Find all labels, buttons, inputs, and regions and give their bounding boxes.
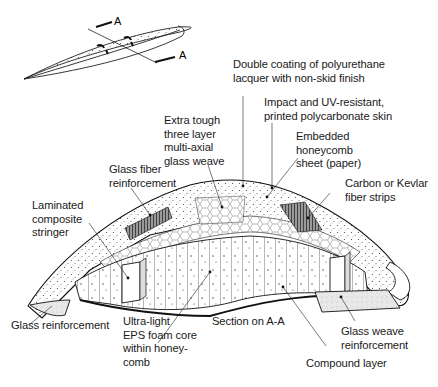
label-eps-foam-core: Ultra-light EPS foam core within honey- … [123, 315, 197, 369]
label-compound-layer: Compound layer [306, 357, 387, 371]
label-laminated-stringer: Laminated composite stringer [32, 199, 83, 240]
inset-board-plan-view: A A [24, 15, 191, 79]
svg-text:A: A [114, 15, 122, 27]
label-glass-weave-reinforcement: Glass weave reinforcement [341, 325, 408, 352]
label-embedded-honeycomb: Embedded honeycomb sheet (paper) [296, 130, 361, 171]
label-double-coating: Double coating of polyurethane lacquer w… [233, 58, 385, 85]
label-glass-fiber-reinforcement: Glass fiber reinforcement [109, 163, 176, 190]
label-glass-reinforcement: Glass reinforcement [11, 319, 109, 333]
svg-text:A: A [179, 49, 187, 61]
label-carbon-kevlar-strips: Carbon or Kevlar fiber strips [345, 177, 428, 204]
label-section-caption: Section on A-A [212, 315, 285, 329]
label-impact-uv-skin: Impact and UV-resistant, printed polycar… [264, 96, 392, 123]
label-extra-tough-weave: Extra tough three layer multi-axial glas… [164, 114, 224, 168]
